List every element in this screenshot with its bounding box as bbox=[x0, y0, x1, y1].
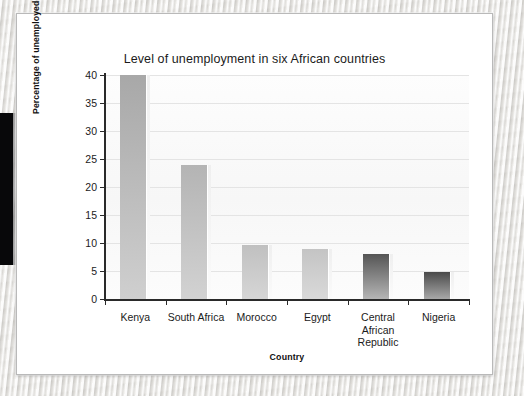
bar-fill bbox=[424, 272, 450, 299]
x-category-line: Egypt bbox=[287, 311, 348, 324]
bar-chart: Level of unemployment in six African cou… bbox=[17, 14, 492, 374]
x-category-line: Kenya bbox=[105, 311, 166, 324]
x-category-line: Central bbox=[348, 311, 409, 324]
bar bbox=[181, 165, 211, 299]
bar-fill bbox=[302, 249, 328, 299]
y-tick-label: 5 bbox=[91, 265, 97, 277]
gridline bbox=[105, 187, 469, 188]
bar-highlight-edge bbox=[146, 75, 150, 299]
desktop-surface: Level of unemployment in six African cou… bbox=[0, 0, 524, 396]
bar-highlight-edge bbox=[450, 272, 454, 299]
x-category-line: Nigeria bbox=[408, 311, 469, 324]
x-category-line: African bbox=[348, 324, 409, 337]
x-category-label: CentralAfricanRepublic bbox=[348, 311, 409, 349]
x-axis-title: Country bbox=[105, 352, 469, 362]
gridline bbox=[105, 103, 469, 104]
gridline bbox=[105, 131, 469, 132]
x-axis-line bbox=[104, 299, 470, 301]
bar-fill bbox=[120, 75, 146, 299]
bar bbox=[302, 249, 332, 299]
bar-fill bbox=[181, 165, 207, 299]
left-edge-black-band bbox=[0, 113, 13, 265]
bar bbox=[120, 75, 150, 299]
gridline bbox=[105, 215, 469, 216]
y-tick-label: 25 bbox=[85, 153, 97, 165]
x-category-line: South Africa bbox=[166, 311, 227, 324]
gridline bbox=[105, 75, 469, 76]
bar bbox=[363, 254, 393, 299]
x-category-label: Morocco bbox=[226, 311, 287, 324]
x-category-label: Egypt bbox=[287, 311, 348, 324]
bar-fill bbox=[363, 254, 389, 299]
y-tick-label: 30 bbox=[85, 125, 97, 137]
y-tick-label: 20 bbox=[85, 181, 97, 193]
bar bbox=[424, 272, 454, 299]
y-axis-title: Percentage of unemployed bbox=[31, 0, 41, 114]
y-tick-label: 15 bbox=[85, 209, 97, 221]
x-category-label: Nigeria bbox=[408, 311, 469, 324]
bar-highlight-edge bbox=[268, 245, 272, 299]
gridline bbox=[105, 271, 469, 272]
bar-highlight-edge bbox=[207, 165, 211, 299]
y-tick-label: 35 bbox=[85, 97, 97, 109]
chart-page-card: Level of unemployment in six African cou… bbox=[16, 13, 493, 375]
bar bbox=[242, 245, 272, 299]
bar-highlight-edge bbox=[389, 254, 393, 299]
gridline bbox=[105, 243, 469, 244]
plot-area: 0510152025303540 KenyaSouth AfricaMorocc… bbox=[105, 75, 469, 299]
y-tick-label: 10 bbox=[85, 237, 97, 249]
y-tick-label: 40 bbox=[85, 69, 97, 81]
gridline bbox=[105, 159, 469, 160]
x-category-line: Republic bbox=[348, 336, 409, 349]
x-category-label: Kenya bbox=[105, 311, 166, 324]
y-tick-label: 0 bbox=[91, 293, 97, 305]
y-axis-line bbox=[104, 73, 106, 301]
bar-fill bbox=[242, 245, 268, 299]
x-category-line: Morocco bbox=[226, 311, 287, 324]
x-category-label: South Africa bbox=[166, 311, 227, 324]
chart-title: Level of unemployment in six African cou… bbox=[17, 52, 492, 66]
bar-highlight-edge bbox=[328, 249, 332, 299]
